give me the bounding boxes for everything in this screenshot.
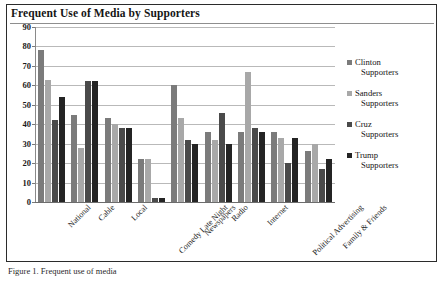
x-tick-label: Family & Friends bbox=[341, 203, 389, 251]
bar-group bbox=[268, 27, 301, 202]
y-tick-label-50: 50 bbox=[23, 100, 32, 110]
bar bbox=[38, 50, 44, 202]
legend-swatch-icon-trump bbox=[347, 153, 352, 158]
bar bbox=[45, 80, 51, 203]
y-tick-label-60: 60 bbox=[23, 80, 32, 90]
legend-label-cruz: CruzSupporters bbox=[355, 119, 398, 139]
bar bbox=[119, 128, 125, 202]
bar-group bbox=[168, 27, 201, 202]
bar-group bbox=[302, 27, 335, 202]
title-divider bbox=[10, 23, 434, 24]
legend-swatch-icon-cruz bbox=[347, 122, 352, 127]
bar bbox=[145, 159, 151, 202]
chart-legend: ClintonSupportersSandersSupportersCruzSu… bbox=[347, 57, 435, 181]
bar bbox=[92, 81, 98, 202]
bar bbox=[152, 198, 158, 202]
bar bbox=[292, 138, 298, 202]
legend-label-sanders: SandersSupporters bbox=[355, 88, 398, 108]
chart-figure: Frequent Use of Media by Supporters 0102… bbox=[6, 4, 437, 262]
bar bbox=[192, 144, 198, 202]
bar bbox=[52, 120, 58, 202]
figure-caption: Figure 1. Frequent use of media bbox=[8, 266, 438, 280]
bar bbox=[226, 144, 232, 202]
x-axis-tick-labels: NationalCableLocalComedy Late NightNewsp… bbox=[35, 203, 335, 261]
legend-item-sanders[interactable]: SandersSupporters bbox=[347, 88, 435, 108]
bar bbox=[126, 128, 132, 202]
bar bbox=[259, 132, 265, 202]
x-tick-label: Cable bbox=[97, 203, 117, 223]
legend-swatch-icon-clinton bbox=[347, 60, 352, 65]
bar bbox=[138, 159, 144, 202]
bar-group bbox=[102, 27, 135, 202]
bar bbox=[85, 81, 91, 202]
legend-label-clinton: ClintonSupporters bbox=[355, 57, 398, 77]
legend-item-trump[interactable]: TrumpSupporters bbox=[347, 150, 435, 170]
bar bbox=[59, 97, 65, 202]
bar bbox=[278, 138, 284, 202]
bar bbox=[71, 115, 77, 203]
chart-title: Frequent Use of Media by Supporters bbox=[11, 7, 200, 19]
y-tick-label-30: 30 bbox=[23, 139, 32, 149]
legend-label-trump: TrumpSupporters bbox=[355, 150, 398, 170]
y-axis-tick-labels: 0102030405060708090 bbox=[7, 27, 33, 202]
bar bbox=[78, 148, 84, 202]
bar bbox=[112, 124, 118, 202]
x-tick-label: Internet bbox=[265, 203, 289, 227]
x-tick-label: National bbox=[66, 203, 92, 229]
bar bbox=[271, 132, 277, 202]
y-tick-label-90: 90 bbox=[23, 22, 32, 32]
legend-item-cruz[interactable]: CruzSupporters bbox=[347, 119, 435, 139]
bar bbox=[319, 169, 325, 202]
bar-group bbox=[68, 27, 101, 202]
y-tick-label-80: 80 bbox=[23, 41, 32, 51]
bar bbox=[212, 140, 218, 202]
legend-swatch-icon-sanders bbox=[347, 91, 352, 96]
bar bbox=[219, 113, 225, 202]
bar bbox=[159, 198, 165, 202]
bar bbox=[245, 72, 251, 202]
bar bbox=[326, 159, 332, 202]
y-tick-label-0: 0 bbox=[27, 197, 31, 207]
bar bbox=[185, 140, 191, 202]
y-tick-label-40: 40 bbox=[23, 119, 32, 129]
bar-group bbox=[235, 27, 268, 202]
bar bbox=[105, 118, 111, 202]
bar bbox=[238, 132, 244, 202]
bar bbox=[205, 132, 211, 202]
bar-group bbox=[35, 27, 68, 202]
plot-area bbox=[35, 27, 335, 202]
bar-series-container bbox=[35, 27, 335, 202]
bar-group bbox=[202, 27, 235, 202]
bar bbox=[312, 144, 318, 202]
bar bbox=[305, 151, 311, 202]
x-tick-label: Local bbox=[130, 203, 150, 223]
bar bbox=[252, 128, 258, 202]
bar bbox=[285, 163, 291, 202]
bar bbox=[171, 85, 177, 202]
bar bbox=[178, 118, 184, 202]
y-tick-label-10: 10 bbox=[23, 178, 32, 188]
y-tick-label-70: 70 bbox=[23, 61, 32, 71]
y-tick-label-20: 20 bbox=[23, 158, 32, 168]
bar-group bbox=[135, 27, 168, 202]
legend-item-clinton[interactable]: ClintonSupporters bbox=[347, 57, 435, 77]
